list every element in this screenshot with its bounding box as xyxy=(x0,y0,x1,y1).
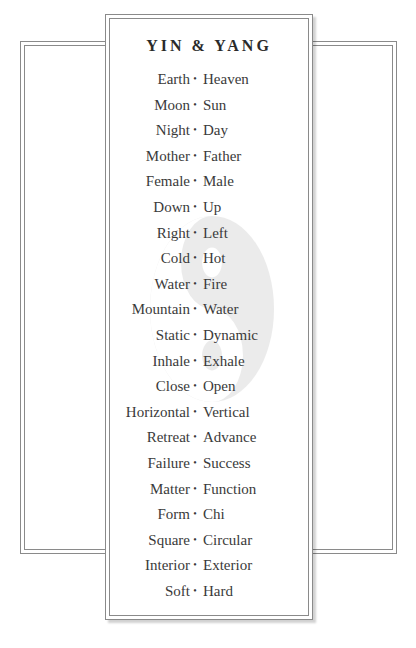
separator-dot: • xyxy=(191,581,199,601)
yin-term: Right xyxy=(157,223,190,243)
yang-term: Exterior xyxy=(203,555,252,575)
pair-row: Square•Circular xyxy=(106,530,312,556)
yin-term: Static xyxy=(156,325,190,345)
separator-dot: • xyxy=(191,299,199,319)
separator-dot: • xyxy=(191,95,199,115)
pair-row: Static•Dynamic xyxy=(106,325,312,351)
separator-dot: • xyxy=(191,555,199,575)
pair-row: Soft•Hard xyxy=(106,581,312,607)
pair-row: Mountain•Water xyxy=(106,299,312,325)
yang-term: Father xyxy=(203,146,241,166)
separator-dot: • xyxy=(191,376,199,396)
yang-term: Exhale xyxy=(203,351,245,371)
yang-term: Left xyxy=(203,223,228,243)
yin-term: Down xyxy=(153,197,190,217)
yang-term: Success xyxy=(203,453,251,473)
yin-term: Female xyxy=(146,171,190,191)
yang-term: Fire xyxy=(203,274,227,294)
yin-term: Cold xyxy=(161,248,190,268)
separator-dot: • xyxy=(191,453,199,473)
pair-row: Matter•Function xyxy=(106,479,312,505)
yin-term: Water xyxy=(155,274,190,294)
yin-term: Retreat xyxy=(147,427,190,447)
yin-term: Night xyxy=(156,120,190,140)
yin-term: Matter xyxy=(150,479,190,499)
pair-row: Interior•Exterior xyxy=(106,555,312,581)
yin-term: Interior xyxy=(145,555,190,575)
pair-row: Female•Male xyxy=(106,171,312,197)
yin-term: Earth xyxy=(158,69,190,89)
yang-term: Water xyxy=(203,299,238,319)
separator-dot: • xyxy=(191,530,199,550)
pair-row: Earth•Heaven xyxy=(106,69,312,95)
page-title: YIN & YANG xyxy=(106,37,312,55)
separator-dot: • xyxy=(191,120,199,140)
pair-row: Close•Open xyxy=(106,376,312,402)
separator-dot: • xyxy=(191,504,199,524)
separator-dot: • xyxy=(191,325,199,345)
pair-row: Moon•Sun xyxy=(106,95,312,121)
yin-term: Square xyxy=(148,530,190,550)
yang-term: Sun xyxy=(203,95,226,115)
yang-term: Chi xyxy=(203,504,225,524)
pair-row: Retreat•Advance xyxy=(106,427,312,453)
yin-term: Moon xyxy=(154,95,190,115)
separator-dot: • xyxy=(191,171,199,191)
yang-term: Dynamic xyxy=(203,325,258,345)
front-panel: YIN & YANG Earth•HeavenMoon•SunNight•Day… xyxy=(105,14,313,620)
yin-term: Mountain xyxy=(132,299,190,319)
separator-dot: • xyxy=(191,427,199,447)
separator-dot: • xyxy=(191,223,199,243)
yang-term: Vertical xyxy=(203,402,250,422)
pairs-list: Earth•HeavenMoon•SunNight•DayMother•Fath… xyxy=(106,69,312,606)
yang-term: Circular xyxy=(203,530,252,550)
yang-term: Up xyxy=(203,197,221,217)
pair-row: Failure•Success xyxy=(106,453,312,479)
separator-dot: • xyxy=(191,402,199,422)
separator-dot: • xyxy=(191,274,199,294)
separator-dot: • xyxy=(191,146,199,166)
pair-row: Water•Fire xyxy=(106,274,312,300)
separator-dot: • xyxy=(191,248,199,268)
pair-row: Form•Chi xyxy=(106,504,312,530)
pair-row: Inhale•Exhale xyxy=(106,351,312,377)
yang-term: Hard xyxy=(203,581,233,601)
pair-row: Horizontal•Vertical xyxy=(106,402,312,428)
separator-dot: • xyxy=(191,479,199,499)
separator-dot: • xyxy=(191,69,199,89)
yin-term: Mother xyxy=(146,146,190,166)
pair-row: Right•Left xyxy=(106,223,312,249)
yin-term: Horizontal xyxy=(126,402,190,422)
yang-term: Advance xyxy=(203,427,256,447)
yang-term: Function xyxy=(203,479,256,499)
pair-row: Cold•Hot xyxy=(106,248,312,274)
pair-row: Night•Day xyxy=(106,120,312,146)
pair-row: Down•Up xyxy=(106,197,312,223)
separator-dot: • xyxy=(191,197,199,217)
yin-term: Inhale xyxy=(153,351,190,371)
yang-term: Open xyxy=(203,376,236,396)
yin-term: Form xyxy=(157,504,190,524)
yin-term: Close xyxy=(156,376,190,396)
yang-term: Heaven xyxy=(203,69,249,89)
yin-term: Failure xyxy=(148,453,191,473)
yang-term: Male xyxy=(203,171,234,191)
pair-row: Mother•Father xyxy=(106,146,312,172)
yang-term: Day xyxy=(203,120,228,140)
yin-term: Soft xyxy=(165,581,190,601)
separator-dot: • xyxy=(191,351,199,371)
yang-term: Hot xyxy=(203,248,226,268)
